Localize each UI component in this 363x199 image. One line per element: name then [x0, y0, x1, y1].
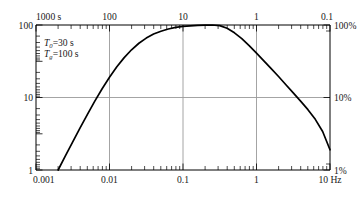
top-tick-label-100: 100: [102, 11, 117, 22]
left-tick-label-1: 1: [28, 165, 33, 176]
annotation-tg: Tg=100 s: [44, 48, 79, 60]
top-tick-label-0.1: 0.1: [321, 11, 333, 22]
bottom-tick-label-1: 1: [254, 174, 259, 185]
right-tick-label-100pct: 100%: [334, 20, 356, 31]
frequency-response-chart: 1000 s 100 10 1 0.1 0.001 0.01 0.1 1 10 …: [0, 0, 363, 199]
top-tick-label-1000s: 1000 s: [36, 11, 62, 22]
plot-canvas: 1000 s 100 10 1 0.1 0.001 0.01 0.1 1 10 …: [0, 0, 363, 199]
left-tick-label-10: 10: [23, 92, 33, 103]
top-tick-label-1: 1: [254, 11, 259, 22]
annotation-tg-value: =100 s: [53, 48, 79, 59]
chart-background: [0, 0, 363, 199]
left-tick-label-100: 100: [19, 20, 34, 31]
parameter-annotations: T0=30 s Tg=100 s: [44, 37, 79, 60]
annotation-t0-value: =30 s: [53, 37, 74, 48]
bottom-tick-label-0.1: 0.1: [177, 174, 189, 185]
bottom-tick-label-10hz: 10 Hz: [318, 174, 341, 185]
top-tick-label-10: 10: [178, 11, 188, 22]
bottom-tick-label-0.001: 0.001: [33, 174, 55, 185]
bottom-tick-label-0.01: 0.01: [101, 174, 118, 185]
right-tick-label-1pct: 1%: [334, 165, 347, 176]
right-tick-label-10pct: 10%: [334, 92, 352, 103]
